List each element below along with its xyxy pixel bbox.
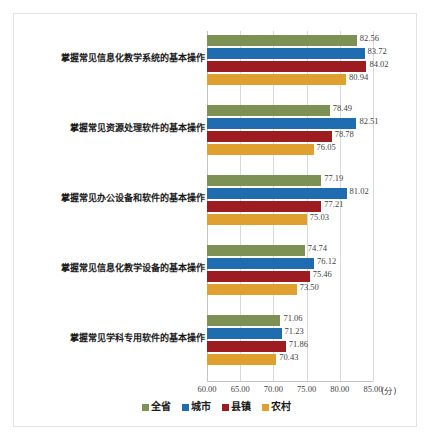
category-label: 掌握常见资源处理软件的基本操作 bbox=[20, 124, 205, 133]
bar-row: 78.49 bbox=[207, 105, 373, 116]
bar[interactable] bbox=[207, 271, 310, 282]
bar-value-label: 70.43 bbox=[279, 352, 298, 362]
legend-item[interactable]: 县镇 bbox=[222, 402, 251, 412]
x-axis-ticks: (分) 60.0065.0070.0075.0080.0085.00 bbox=[14, 384, 418, 398]
bar[interactable] bbox=[207, 74, 346, 85]
bar-row: 76.05 bbox=[207, 144, 373, 155]
x-tick-label: 80.00 bbox=[330, 384, 349, 394]
legend-swatch-icon bbox=[182, 404, 189, 411]
bar-row: 73.50 bbox=[207, 284, 373, 295]
bar-row: 78.78 bbox=[207, 131, 373, 142]
bar[interactable] bbox=[207, 315, 280, 326]
bar[interactable] bbox=[207, 175, 321, 186]
gridline bbox=[373, 31, 374, 381]
bar[interactable] bbox=[207, 105, 330, 116]
bar-groups: 82.5683.7284.0280.9478.4982.5178.7876.05… bbox=[207, 31, 373, 381]
chart-container: 掌握常见信息化教学系统的基本操作掌握常见资源处理软件的基本操作掌握常见办公设备和… bbox=[13, 13, 417, 427]
bar-group: 82.5683.7284.0280.94 bbox=[207, 35, 373, 91]
bar-value-label: 76.12 bbox=[317, 256, 336, 266]
bar-row: 75.03 bbox=[207, 214, 373, 225]
category-label: 掌握常见办公设备和软件的基本操作 bbox=[20, 194, 205, 203]
bar-value-label: 75.03 bbox=[310, 212, 329, 222]
bar[interactable] bbox=[207, 188, 347, 199]
bar-row: 82.56 bbox=[207, 35, 373, 46]
bar-row: 76.12 bbox=[207, 258, 373, 269]
x-tick-label: 60.00 bbox=[197, 384, 216, 394]
category-label: 掌握常见信息化教学设备的基本操作 bbox=[20, 264, 205, 273]
bar-row: 71.23 bbox=[207, 328, 373, 339]
bar-value-label: 74.74 bbox=[308, 243, 327, 253]
bar[interactable] bbox=[207, 144, 314, 155]
bar-value-label: 82.51 bbox=[359, 116, 378, 126]
category-axis: 掌握常见信息化教学系统的基本操作掌握常见资源处理软件的基本操作掌握常见办公设备和… bbox=[14, 31, 205, 381]
bar[interactable] bbox=[207, 214, 307, 225]
bar[interactable] bbox=[207, 35, 357, 46]
bar-value-label: 71.86 bbox=[289, 339, 308, 349]
x-tick-label: 70.00 bbox=[264, 384, 283, 394]
bar[interactable] bbox=[207, 118, 356, 129]
legend-swatch-icon bbox=[262, 404, 269, 411]
legend-label: 农村 bbox=[271, 402, 291, 412]
bar[interactable] bbox=[207, 48, 365, 59]
bar[interactable] bbox=[207, 245, 305, 256]
bar-row: 74.74 bbox=[207, 245, 373, 256]
x-tick-label: 65.00 bbox=[231, 384, 250, 394]
bar[interactable] bbox=[207, 354, 276, 365]
bar-value-label: 77.21 bbox=[324, 199, 343, 209]
legend-item[interactable]: 农村 bbox=[262, 402, 291, 412]
bar-value-label: 81.02 bbox=[350, 186, 369, 196]
bar[interactable] bbox=[207, 328, 282, 339]
legend-swatch-icon bbox=[222, 404, 229, 411]
bar-row: 81.02 bbox=[207, 188, 373, 199]
bar-group: 77.1981.0277.2175.03 bbox=[207, 175, 373, 231]
bar[interactable] bbox=[207, 61, 366, 72]
bar-row: 82.51 bbox=[207, 118, 373, 129]
bar-row: 83.72 bbox=[207, 48, 373, 59]
bar-value-label: 80.94 bbox=[349, 72, 368, 82]
bar[interactable] bbox=[207, 341, 286, 352]
bar-row: 75.46 bbox=[207, 271, 373, 282]
bar-value-label: 83.72 bbox=[368, 46, 387, 56]
bar-value-label: 71.06 bbox=[283, 313, 302, 323]
bar-value-label: 71.23 bbox=[285, 326, 304, 336]
x-tick-label: 85.00 bbox=[363, 384, 382, 394]
x-tick-label: 75.00 bbox=[297, 384, 316, 394]
legend-swatch-icon bbox=[142, 404, 149, 411]
bar-row: 77.21 bbox=[207, 201, 373, 212]
bar-group: 78.4982.5178.7876.05 bbox=[207, 105, 373, 161]
bar[interactable] bbox=[207, 284, 297, 295]
bar-group: 74.7476.1275.4673.50 bbox=[207, 245, 373, 301]
x-axis-line bbox=[207, 381, 373, 382]
legend-item[interactable]: 全省 bbox=[142, 402, 171, 412]
bar-row: 84.02 bbox=[207, 61, 373, 72]
bar-value-label: 84.02 bbox=[369, 59, 388, 69]
legend-label: 县镇 bbox=[231, 402, 251, 412]
plot-area: 82.5683.7284.0280.9478.4982.5178.7876.05… bbox=[207, 31, 373, 381]
bar-row: 80.94 bbox=[207, 74, 373, 85]
bar-value-label: 75.46 bbox=[313, 269, 332, 279]
bar-value-label: 73.50 bbox=[300, 282, 319, 292]
bar-row: 70.43 bbox=[207, 354, 373, 365]
category-label: 掌握常见信息化教学系统的基本操作 bbox=[20, 54, 205, 63]
bar[interactable] bbox=[207, 201, 321, 212]
bar-value-label: 76.05 bbox=[317, 142, 336, 152]
legend-item[interactable]: 城市 bbox=[182, 402, 211, 412]
chart-legend: 全省城市县镇农村 bbox=[14, 402, 418, 412]
bar-value-label: 77.19 bbox=[324, 173, 343, 183]
bar-group: 71.0671.2371.8670.43 bbox=[207, 315, 373, 371]
bar[interactable] bbox=[207, 258, 314, 269]
bar-row: 77.19 bbox=[207, 175, 373, 186]
bar-value-label: 78.78 bbox=[335, 129, 354, 139]
x-axis-unit-label: (分) bbox=[381, 384, 397, 396]
bar-row: 71.86 bbox=[207, 341, 373, 352]
category-label: 掌握常见学科专用软件的基本操作 bbox=[20, 334, 205, 343]
legend-label: 城市 bbox=[191, 402, 211, 412]
bar[interactable] bbox=[207, 131, 332, 142]
bar-value-label: 82.56 bbox=[360, 33, 379, 43]
bar-value-label: 78.49 bbox=[333, 103, 352, 113]
bar-row: 71.06 bbox=[207, 315, 373, 326]
legend-label: 全省 bbox=[151, 402, 171, 412]
